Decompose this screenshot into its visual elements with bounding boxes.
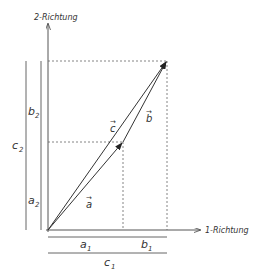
label-c2: c 2 bbox=[12, 139, 24, 154]
svg-text:2: 2 bbox=[19, 146, 24, 154]
svg-text:c: c bbox=[104, 256, 110, 269]
label-a1: a 1 bbox=[80, 238, 91, 253]
svg-text:1: 1 bbox=[87, 245, 91, 253]
svg-text:a: a bbox=[28, 194, 35, 207]
label-a2: a 2 bbox=[28, 194, 40, 209]
label-c1: c 1 bbox=[104, 256, 115, 271]
svg-text:2: 2 bbox=[35, 201, 40, 209]
svg-text:a: a bbox=[80, 238, 87, 251]
svg-text:→: → bbox=[146, 108, 152, 116]
svg-text:1: 1 bbox=[111, 263, 115, 271]
y-axis-label: 2-Richtung bbox=[34, 13, 78, 22]
svg-text:2: 2 bbox=[35, 112, 40, 120]
svg-text:c: c bbox=[12, 139, 18, 152]
svg-text:b: b bbox=[141, 238, 148, 251]
vector-c bbox=[48, 62, 166, 230]
svg-text:→: → bbox=[110, 118, 116, 126]
diagram-canvas: 2-Richtung 1-Richtung c → b → a → b 2 c … bbox=[0, 0, 262, 277]
label-vector-a: a → bbox=[86, 194, 92, 210]
x-axis-label: 1-Richtung bbox=[205, 226, 249, 235]
label-b1: b 1 bbox=[141, 238, 152, 253]
vector-b bbox=[123, 62, 166, 142]
label-vector-b: b → bbox=[146, 108, 152, 124]
svg-text:b: b bbox=[28, 105, 35, 118]
label-vector-c: c → bbox=[110, 118, 116, 134]
svg-text:1: 1 bbox=[148, 245, 152, 253]
vector-a bbox=[48, 143, 122, 230]
label-b2: b 2 bbox=[28, 105, 40, 120]
svg-text:→: → bbox=[86, 194, 92, 202]
vector-addition-diagram: 2-Richtung 1-Richtung c → b → a → b 2 c … bbox=[0, 0, 262, 277]
